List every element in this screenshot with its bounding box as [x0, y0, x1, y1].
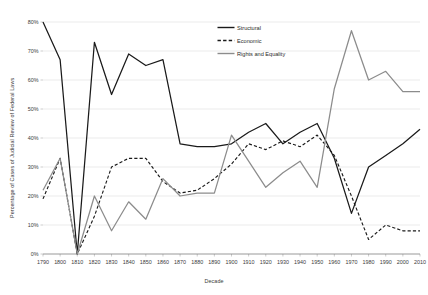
- y-tick-label: 70%: [28, 48, 39, 54]
- y-tick-label: 40%: [28, 135, 39, 141]
- series-line-economic: [43, 135, 420, 254]
- x-tick-marks-group: [43, 254, 420, 257]
- x-tick-label: 1790: [37, 259, 49, 265]
- x-tick-label: 1970: [345, 259, 357, 265]
- x-tick-label: 1800: [54, 259, 66, 265]
- y-tick-label: 30%: [28, 164, 39, 170]
- y-tick-label: 0%: [31, 251, 39, 257]
- x-tick-label: 1810: [71, 259, 83, 265]
- x-tick-label: 1840: [123, 259, 135, 265]
- chart-container: Percentage of Cases of Judicial Review o…: [0, 0, 428, 295]
- x-tick-label: 1910: [243, 259, 255, 265]
- y-tick-labels-group: 0%10%20%30%40%50%60%70%80%: [28, 19, 43, 257]
- legend-label-2: Economic: [237, 38, 262, 44]
- x-tick-label: 1890: [208, 259, 220, 265]
- x-tick-label: 1920: [260, 259, 272, 265]
- x-tick-label: 1870: [174, 259, 186, 265]
- x-tick-label: 1990: [380, 259, 392, 265]
- series-line-rights-and-equality: [43, 31, 420, 254]
- x-tick-label: 2010: [414, 259, 426, 265]
- x-tick-label: 1880: [191, 259, 203, 265]
- x-tick-label: 1860: [157, 259, 169, 265]
- y-tick-label: 20%: [28, 193, 39, 199]
- x-tick-label: 1930: [277, 259, 289, 265]
- x-tick-label: 1940: [294, 259, 306, 265]
- line-chart-plot: 0%10%20%30%40%50%60%70%80% 1790180018101…: [0, 0, 428, 295]
- x-tick-label: 1960: [328, 259, 340, 265]
- x-tick-label: 1850: [140, 259, 152, 265]
- x-tick-label: 1900: [226, 259, 238, 265]
- legend-label-3: Rights and Equality: [237, 51, 285, 57]
- x-tick-label: 1820: [88, 259, 100, 265]
- x-tick-label: 1980: [363, 259, 375, 265]
- y-tick-label: 10%: [28, 222, 39, 228]
- y-tick-label: 60%: [28, 77, 39, 83]
- x-tick-label: 1830: [106, 259, 118, 265]
- y-tick-label: 50%: [28, 106, 39, 112]
- legend-label-1: Structural: [237, 25, 261, 31]
- chart-legend: StructuralEconomicRights and Equality: [218, 25, 286, 57]
- x-tick-labels-group: 1790180018101820183018401850186018701880…: [37, 259, 426, 265]
- y-tick-label: 80%: [28, 19, 39, 25]
- x-tick-label: 1950: [311, 259, 323, 265]
- gridlines-group: [43, 22, 420, 225]
- x-tick-label: 2000: [397, 259, 409, 265]
